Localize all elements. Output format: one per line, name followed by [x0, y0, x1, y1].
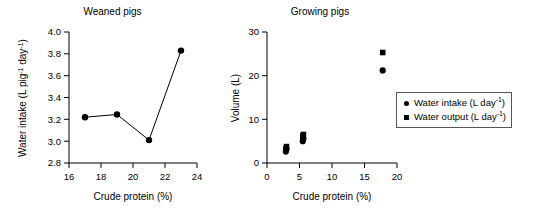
legend-circle-marker-icon	[401, 96, 411, 110]
svg-text:5: 5	[297, 171, 302, 182]
legend-label-water-intake-base: Water intake (L day	[414, 97, 496, 108]
x-ticks-weaned	[69, 163, 197, 168]
data-line-weaned	[85, 51, 181, 141]
svg-text:Volume (L): Volume (L)	[230, 74, 241, 122]
data-point	[301, 132, 307, 138]
y-axis-title-weaned: Water intake (L pig-1 day-1)	[17, 39, 29, 157]
data-point	[380, 50, 386, 56]
svg-text:20: 20	[392, 171, 403, 182]
y-axis-title-weaned-tail: )	[17, 39, 28, 42]
x-axis-title-growing: Crude protein (%)	[293, 191, 372, 202]
y-ticks-weaned	[64, 32, 69, 163]
y-tick-labels-growing: 0 10 20 30	[248, 26, 259, 168]
legend-square-marker-icon	[401, 110, 411, 124]
data-point	[82, 114, 88, 120]
svg-text:Water intake (L pig-1 day-1): Water intake (L pig-1 day-1)	[17, 39, 29, 157]
svg-text:15: 15	[359, 171, 370, 182]
plot-weaned-pigs: 2.8 3.0 3.2 3.4 3.6 3.8 4.0 16 18 20 22 …	[0, 0, 225, 215]
y-axis-title-weaned-base: Water intake (L pig	[17, 74, 28, 157]
legend-label-water-intake-tail: )	[502, 97, 505, 108]
svg-text:16: 16	[64, 171, 75, 182]
legend-label-water-output: Water output (L day-1)	[414, 110, 506, 124]
legend-label-water-output-base: Water output (L day	[414, 111, 497, 122]
svg-text:10: 10	[327, 171, 338, 182]
chart-panel-weaned-pigs: Weaned pigs	[0, 0, 225, 215]
data-point	[380, 67, 386, 73]
svg-text:3.4: 3.4	[48, 92, 61, 103]
svg-text:20: 20	[248, 70, 259, 81]
svg-text:3.6: 3.6	[48, 70, 61, 81]
legend-item-water-intake: Water intake (L day-1)	[401, 96, 506, 110]
data-point	[178, 47, 184, 53]
y-tick-labels-weaned: 2.8 3.0 3.2 3.4 3.6 3.8 4.0	[48, 26, 61, 168]
data-points-weaned	[82, 47, 184, 143]
svg-text:3.2: 3.2	[48, 114, 61, 125]
x-ticks-growing	[267, 163, 397, 168]
figure-panel-container: Weaned pigs	[0, 0, 539, 215]
data-point	[114, 111, 120, 117]
svg-text:0: 0	[254, 157, 259, 168]
chart-legend: Water intake (L day-1) Water output (L d…	[396, 92, 512, 128]
svg-text:18: 18	[96, 171, 107, 182]
data-point	[284, 144, 290, 150]
svg-text:22: 22	[160, 171, 171, 182]
svg-text:2.8: 2.8	[48, 157, 61, 168]
data-point	[146, 137, 152, 143]
svg-text:10: 10	[248, 114, 259, 125]
y-ticks-growing	[262, 32, 267, 163]
x-axis-title-weaned: Crude protein (%)	[94, 191, 173, 202]
data-points-growing-intake	[283, 67, 386, 154]
svg-text:20: 20	[128, 171, 139, 182]
data-points-growing-output	[283, 50, 385, 152]
legend-label-water-intake: Water intake (L day-1)	[414, 96, 505, 110]
chart-panel-growing-pigs: Growing pigs 0	[225, 0, 415, 215]
plot-growing-pigs: 0 10 20 30 0 5 10 15 20 Crude protein (%…	[225, 0, 415, 215]
y-axis-title-growing: Volume (L)	[230, 74, 241, 122]
svg-text:24: 24	[192, 171, 203, 182]
svg-text:3.0: 3.0	[48, 136, 61, 147]
svg-text:30: 30	[248, 26, 259, 37]
legend-item-water-output: Water output (L day-1)	[401, 110, 506, 124]
svg-text:3.8: 3.8	[48, 48, 61, 59]
y-axis-title-weaned-mid: day	[17, 49, 28, 68]
legend-label-water-output-tail: )	[503, 111, 506, 122]
x-tick-labels-weaned: 16 18 20 22 24	[64, 171, 203, 182]
x-tick-labels-growing: 0 5 10 15 20	[264, 171, 402, 182]
svg-text:4.0: 4.0	[48, 26, 61, 37]
svg-text:0: 0	[264, 171, 269, 182]
